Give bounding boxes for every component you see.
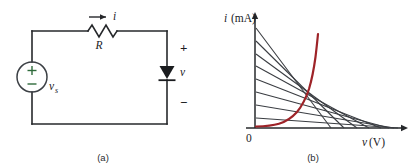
current-label: i (113, 10, 116, 22)
diode-plus-label: + (180, 40, 187, 55)
load-line (256, 118, 398, 128)
y-axis-label-symbol: i (224, 12, 227, 24)
caption-panel-a: (a) (97, 152, 109, 163)
diode-characteristic-curve (256, 34, 318, 127)
source-plus-icon (28, 66, 37, 75)
figure-container: v s R i v + − (a) (0, 0, 413, 168)
panel-a-circuit: v s R i v + − (a) (17, 10, 187, 163)
origin-label: 0 (246, 132, 252, 144)
resistor-symbol (88, 25, 117, 37)
load-line-family (256, 28, 398, 128)
diode-symbol (159, 66, 176, 80)
x-axis-label-symbol: v (362, 136, 368, 148)
resistor-label: R (94, 39, 102, 51)
diode-voltage-label: v (180, 66, 186, 78)
caption-panel-b: (b) (307, 152, 319, 163)
y-axis-label-unit: (mA) (231, 12, 256, 25)
diode-minus-label: − (180, 95, 187, 110)
load-line (256, 54, 357, 128)
figure-svg: v s R i v + − (a) (0, 0, 413, 168)
x-axis-label-unit: (V) (369, 136, 385, 149)
current-arrow-icon (89, 14, 106, 20)
panel-b-chart: i (mA) v (V) 0 (b) (224, 12, 408, 163)
source-label-subscript: s (55, 86, 58, 95)
